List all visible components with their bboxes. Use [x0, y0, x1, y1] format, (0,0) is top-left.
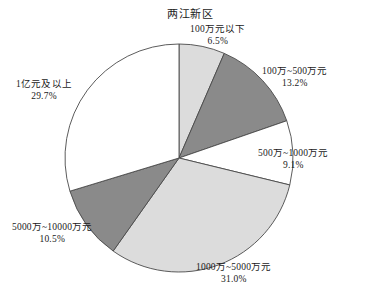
slice-label-5000wan-10000wan: 5000万~10000万元 10.5% [12, 222, 93, 245]
slice-label-1yiyuan-jiyishang: 1亿元及以上 29.7% [16, 79, 72, 102]
slice-label-percent: 9.1% [258, 160, 329, 172]
slice-label-percent: 6.5% [190, 36, 246, 48]
slice-label-percent: 29.7% [16, 91, 72, 103]
slice-label-500wan-1000wan: 500万~1000万元 9.1% [258, 148, 329, 171]
slice-label-100wan-yixia: 100万元以下 6.5% [190, 24, 246, 47]
slice-label-1000wan-5000wan: 1000万~5000万元 31.0% [196, 262, 272, 285]
slice-label-percent: 31.0% [196, 274, 272, 286]
slice-label-name: 100万元以下 [190, 24, 246, 36]
slice-label-name: 500万~1000万元 [258, 148, 329, 160]
slice-label-name: 100万~500万元 [262, 66, 328, 78]
pie-chart-figure: 两江新区 100万元以下 6.5% 100万~500万元 13.2% 500万~… [0, 0, 380, 303]
slice-label-name: 5000万~10000万元 [12, 222, 93, 234]
slice-label-name: 1亿元及以上 [16, 79, 72, 91]
slice-label-percent: 10.5% [12, 234, 93, 246]
slice-label-100wan-500wan: 100万~500万元 13.2% [262, 66, 328, 89]
slice-label-percent: 13.2% [262, 78, 328, 90]
slice-label-name: 1000万~5000万元 [196, 262, 272, 274]
